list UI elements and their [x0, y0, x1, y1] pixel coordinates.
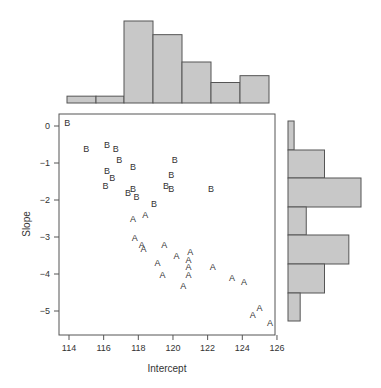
point-b: B	[208, 184, 214, 194]
point-b: B	[83, 144, 89, 154]
point-b: B	[168, 184, 174, 194]
point-a: A	[186, 270, 192, 280]
point-a: A	[257, 303, 263, 313]
right-histogram-bar	[288, 207, 306, 235]
point-b: B	[130, 162, 136, 172]
top-histogram-bar	[240, 76, 269, 103]
top-histogram-bar	[124, 21, 153, 103]
point-a: A	[161, 240, 167, 250]
right-histogram-bar	[288, 235, 349, 264]
y-tick-label: −1	[40, 158, 50, 168]
right-histogram-bar	[288, 121, 294, 150]
top-histogram	[67, 21, 269, 103]
point-a: A	[241, 277, 247, 287]
y-tick-label: −5	[40, 306, 50, 316]
point-a: A	[210, 262, 216, 272]
point-b: B	[113, 144, 119, 154]
top-histogram-bar	[153, 35, 182, 103]
x-tick-label: 118	[131, 343, 145, 353]
right-histogram-bar	[288, 150, 325, 178]
x-tick-label: 120	[165, 343, 180, 353]
point-a: A	[180, 281, 186, 291]
y-tick-label: −3	[40, 232, 50, 242]
right-histogram-bar	[288, 264, 325, 293]
y-tick-label: 0	[45, 121, 50, 131]
point-b: B	[102, 181, 108, 191]
x-tick-label: 122	[200, 343, 215, 353]
y-tick-label: −4	[40, 269, 50, 279]
data-points: BBBBBBBBBBBBBBBBBBAAAAAAAAAAAAAAAAAAAA	[64, 118, 273, 328]
x-tick-label: 126	[269, 343, 284, 353]
right-histogram-bar	[288, 178, 361, 207]
point-a: A	[160, 270, 166, 280]
point-b: B	[116, 155, 122, 165]
right-histogram	[288, 121, 361, 321]
chart-stage: 114116118120122124126 0−1−2−3−4−5 BBBBBB…	[0, 0, 381, 388]
point-a: A	[142, 210, 148, 220]
point-b: B	[104, 140, 110, 150]
y-axis-label: Slope	[21, 211, 32, 237]
point-a: A	[267, 318, 273, 328]
point-a: A	[250, 310, 256, 320]
point-a: A	[173, 251, 179, 261]
top-histogram-bar	[182, 62, 211, 103]
x-tick-label: 114	[62, 343, 76, 353]
top-histogram-bar	[211, 83, 240, 104]
point-b: B	[168, 170, 174, 180]
point-b: B	[109, 173, 115, 183]
point-b: B	[172, 155, 178, 165]
x-tick-label: 116	[96, 343, 110, 353]
x-tick-label: 124	[235, 343, 250, 353]
scatter-with-marginal-histograms: 114116118120122124126 0−1−2−3−4−5 BBBBBB…	[0, 0, 381, 388]
point-a: A	[154, 258, 160, 268]
point-a: A	[141, 244, 147, 254]
point-b: B	[64, 118, 70, 128]
right-histogram-bar	[288, 293, 300, 321]
point-b: B	[151, 199, 157, 209]
top-histogram-bar	[67, 96, 96, 103]
top-histogram-bar	[96, 96, 124, 103]
point-a: A	[132, 233, 138, 243]
x-axis-label: Intercept	[148, 363, 187, 374]
y-tick-label: −2	[40, 195, 50, 205]
point-b: B	[134, 192, 140, 202]
x-axis: 114116118120122124126	[62, 335, 285, 353]
point-a: A	[229, 273, 235, 283]
y-axis: 0−1−2−3−4−5	[40, 121, 59, 316]
plot-frame	[59, 114, 275, 335]
point-a: A	[130, 214, 136, 224]
